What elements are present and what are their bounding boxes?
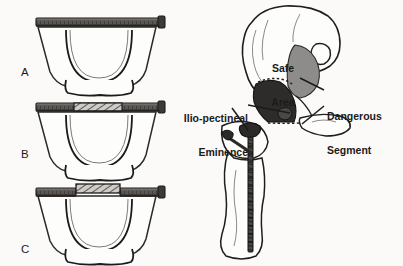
anatomical-figure: A B C Safe Area Ilio-pectineal Eminence … <box>0 0 403 266</box>
safe-area-label-line1: Safe <box>261 63 305 74</box>
ilio-pectineal-label-line2: Eminence <box>168 147 248 158</box>
ilio-pectineal-label-line1: Ilio-pectineal <box>168 113 248 124</box>
safe-area-label-line2: Area <box>261 97 305 108</box>
panel-letter-c: C <box>21 243 30 255</box>
plate-texture-a <box>38 21 158 24</box>
ilio-pectineal-eminence-label: Ilio-pectineal Eminence <box>168 90 248 181</box>
panel-letter-b: B <box>21 148 29 160</box>
safe-area-label: Safe Area <box>261 40 305 131</box>
dangerous-segment-label-line1: Dangerous <box>327 111 399 122</box>
dome-base-a <box>65 80 133 96</box>
dangerous-segment-label-line2: Segment <box>327 145 399 156</box>
panel-a-diagram <box>36 16 165 96</box>
dome-base-c <box>65 249 133 265</box>
dome-base-b <box>65 165 133 181</box>
panel-c-diagram <box>36 184 165 265</box>
panel-letter-a: A <box>21 66 29 78</box>
plate-right-texture-c <box>122 191 158 194</box>
dangerous-segment-label: Dangerous Segment <box>327 88 399 179</box>
plate-left-texture-c <box>38 191 74 194</box>
plate-raised-segment-c <box>76 184 120 193</box>
panel-b-diagram <box>36 101 165 181</box>
plate-contour-segment-b <box>74 103 122 111</box>
